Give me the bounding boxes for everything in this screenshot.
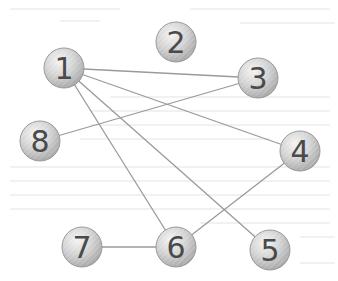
- edge-8-3: [40, 78, 258, 141]
- node-label: 6: [166, 230, 185, 265]
- node-label: 1: [54, 51, 73, 86]
- node-7: 7: [62, 227, 102, 267]
- node-5: 5: [250, 230, 290, 270]
- network-graph: 12345678: [0, 0, 338, 281]
- node-1: 1: [44, 48, 84, 88]
- node-label: 8: [30, 124, 49, 159]
- node-8: 8: [20, 121, 60, 161]
- edge-1-6: [64, 68, 176, 247]
- node-label: 3: [248, 61, 267, 96]
- node-label: 2: [166, 25, 185, 60]
- edge-6-4: [176, 151, 300, 247]
- edge-1-5: [64, 68, 270, 250]
- node-4: 4: [280, 131, 320, 171]
- node-label: 4: [290, 134, 309, 169]
- node-3: 3: [238, 58, 278, 98]
- nodes-group: 12345678: [20, 22, 320, 270]
- node-label: 5: [260, 233, 279, 268]
- node-label: 7: [72, 230, 91, 265]
- edge-1-3: [64, 68, 258, 78]
- node-2: 2: [156, 22, 196, 62]
- node-6: 6: [156, 227, 196, 267]
